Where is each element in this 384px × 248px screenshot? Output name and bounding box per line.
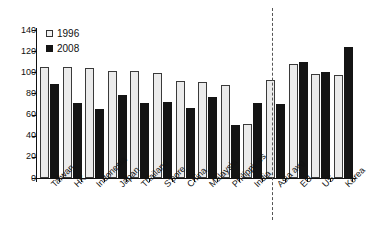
y-tick-label: 140: [8, 26, 36, 35]
bar-group: [311, 30, 330, 178]
y-tick: 40: [0, 131, 36, 140]
y-tick-label: 40: [8, 131, 36, 140]
bar-2008: [95, 109, 104, 178]
x-tick-mark: [36, 178, 37, 182]
bar-group: [221, 30, 240, 178]
filled-square-icon: [46, 45, 53, 52]
bar-2008: [321, 72, 330, 178]
bar-1996: [198, 82, 207, 178]
y-tick: 60: [0, 110, 36, 119]
bar-1996: [63, 67, 72, 178]
bar-2008: [344, 47, 353, 178]
y-tick-label: 0: [8, 174, 36, 183]
bar-group: [334, 30, 353, 178]
bar-1996: [40, 67, 49, 178]
legend-item-label: 1996: [57, 29, 79, 39]
y-tick-label: 20: [8, 152, 36, 161]
bar-2008: [50, 84, 59, 178]
y-tick-label: 60: [8, 110, 36, 119]
bar-1996: [334, 75, 343, 178]
bar-1996: [311, 74, 320, 178]
bar-group: [130, 30, 149, 178]
bar-group: [176, 30, 195, 178]
legend-item: 1996: [46, 27, 79, 40]
bar-1996: [85, 68, 94, 178]
chart-legend: 1996 2008: [46, 27, 79, 57]
bar-2008: [276, 104, 285, 178]
legend-item-label: 2008: [57, 44, 79, 54]
bar-group: [153, 30, 172, 178]
bar-group: [266, 30, 285, 178]
bar-1996: [130, 71, 139, 178]
y-tick: 20: [0, 152, 36, 161]
bar-1996: [266, 80, 275, 178]
region-divider-line: [272, 8, 273, 220]
open-square-icon: [46, 30, 53, 37]
bar-group: [198, 30, 217, 178]
bar-2008: [208, 97, 217, 178]
bar-2008: [140, 103, 149, 178]
plot-area: 020406080100120140 TaiwanHKIndonesiaJapa…: [0, 0, 384, 248]
y-tick-label: 80: [8, 89, 36, 98]
bar-group: [85, 30, 104, 178]
y-tick-label: 120: [8, 47, 36, 56]
legend-item: 2008: [46, 42, 79, 55]
y-tick: 120: [0, 47, 36, 56]
y-tick-label: 100: [8, 68, 36, 77]
y-tick: 0: [0, 174, 36, 183]
y-axis-line: [36, 28, 37, 179]
bar-2008: [186, 108, 195, 178]
y-tick: 80: [0, 89, 36, 98]
bar-chart: 020406080100120140 TaiwanHKIndonesiaJapa…: [0, 0, 384, 248]
y-tick: 140: [0, 26, 36, 35]
bar-group: [289, 30, 308, 178]
y-tick: 100: [0, 68, 36, 77]
